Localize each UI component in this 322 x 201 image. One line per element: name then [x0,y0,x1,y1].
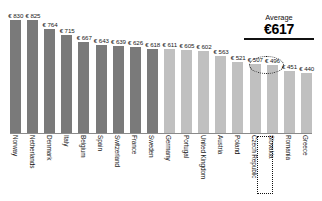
bar-column: € 611 [164,10,175,133]
category-label: Poland [234,135,241,154]
bar [78,42,89,133]
bar [96,45,107,133]
bar [61,35,72,133]
bar [215,56,226,133]
category-label: Denmark [46,135,53,160]
bar [130,47,141,133]
category-label: Netherlands [29,135,36,168]
bar [267,65,278,133]
category-label-slot: Greece [301,135,312,199]
category-label: Czech Republic [251,135,258,178]
category-label-slot: Norway [10,135,21,199]
category-label-slot: Sweden [147,135,158,199]
average-annotation: Average €617 [244,13,314,40]
category-label-slot: France [130,135,141,199]
category-label: France [131,135,138,154]
bar-column: € 639 [113,10,124,133]
category-label-slot: Netherlands [27,135,38,199]
bar-value-label: € 611 [163,41,178,48]
category-label-slot: Spain [96,135,107,199]
bar [198,51,209,133]
category-label: Switzerland [114,135,121,167]
category-label-slot: Germany [164,135,175,199]
bar [301,73,312,133]
bar-value-label: € 764 [43,21,58,28]
bar-value-label: € 563 [214,48,229,55]
category-label: Italy [63,135,70,146]
bar [284,71,295,133]
bar [181,50,192,133]
bar-column: € 667 [78,10,89,133]
bar-value-label: € 715 [60,27,75,34]
category-label: Portugal [183,135,190,158]
category-label-slot: Portugal [181,135,192,199]
category-label-slot: Poland [232,135,243,199]
bar-value-label: € 643 [94,37,109,44]
average-rule [244,38,314,40]
category-label: Norway [12,135,19,156]
category-label-slot: Italy [61,135,72,199]
category-label: Greece [303,135,310,155]
bar-value-label: € 639 [111,38,126,45]
bar-value-label: € 618 [145,41,160,48]
category-label: Sweden [149,135,156,158]
bar [147,49,158,133]
bar-value-label: € 605 [179,42,194,49]
category-label-slot: Romania [284,135,295,199]
category-label-slot: Slovakia [267,135,278,199]
bar [27,20,38,133]
x-axis-category-labels: NorwayNetherlandsDenmarkItalyBelgiumSpai… [10,135,312,199]
category-label: Austria [217,135,224,154]
bar-column: € 764 [44,10,55,133]
bar-column: € 605 [181,10,192,133]
bar-column: € 830 [10,10,21,133]
bar-value-label: € 507 [248,56,263,63]
category-label-slot: United Kingdom [198,135,209,199]
bar-column: € 563 [215,10,226,133]
bar-value-label: € 496 [265,57,280,64]
bar [113,46,124,133]
category-label-slot: Belgium [78,135,89,199]
bar [164,49,175,133]
category-label-slot: Czech Republic [250,135,261,199]
bar-column: € 618 [147,10,158,133]
category-label: United Kingdom [200,135,207,179]
bar-column: € 626 [130,10,141,133]
bar-column: € 521 [232,10,243,133]
bar-value-label: € 626 [128,39,143,46]
bar [44,29,55,133]
category-label: Germany [166,135,173,161]
bar-value-label: € 451 [282,63,297,70]
bar-column: € 643 [96,10,107,133]
bar-value-label: € 667 [77,34,92,41]
bar-value-label: € 521 [231,54,246,61]
bar-value-label: € 825 [25,12,40,19]
bar-column: € 715 [61,10,72,133]
bar-value-label: € 602 [197,43,212,50]
bar-column: € 602 [198,10,209,133]
category-label: Belgium [80,135,87,157]
bar-column: € 825 [27,10,38,133]
bar [250,64,261,133]
category-label-slot: Austria [215,135,226,199]
category-label: Slovakia [268,135,275,158]
category-label-slot: Denmark [44,135,55,199]
bar [232,62,243,133]
average-value: €617 [244,22,314,37]
bar-value-label: € 440 [299,65,314,72]
bar-chart: € 830€ 825€ 764€ 715€ 667€ 643€ 639€ 626… [0,0,322,201]
bar [10,20,21,133]
category-label-slot: Switzerland [113,135,124,199]
category-label: Romania [285,135,292,160]
category-label: Spain [97,135,104,151]
x-axis-line [10,133,312,134]
bar-value-label: € 830 [8,12,23,19]
